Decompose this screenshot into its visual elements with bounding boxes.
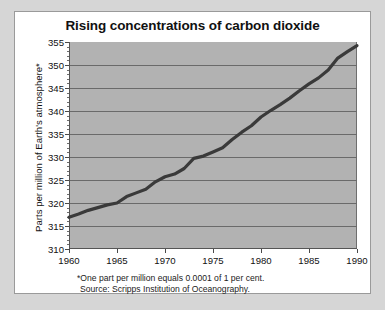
y-tick-label: 345 [48, 83, 64, 94]
figure-card: Rising concentrations of carbon dioxide … [14, 11, 371, 294]
x-tick-label: 1965 [106, 255, 127, 266]
x-tick-label: 1970 [154, 255, 175, 266]
x-tick-label: 1975 [202, 255, 223, 266]
y-tick-label: 325 [48, 175, 64, 186]
x-tick-label: 1990 [346, 255, 367, 266]
x-tick-mark [69, 249, 70, 253]
y-axis-title: Parts per million of Earth's atmosphere* [33, 53, 44, 243]
y-tick-label: 340 [48, 106, 64, 117]
x-tick-mark [357, 249, 358, 253]
plot-wrap: 310315320325330335340345350355 196019651… [69, 42, 357, 249]
y-tick-label: 310 [48, 244, 64, 255]
x-tick-mark [261, 249, 262, 253]
page-title: Rising concentrations of carbon dioxide [15, 18, 370, 33]
footnotes: *One part per million equals 0.0001 of 1… [77, 273, 264, 295]
y-tick-label: 350 [48, 60, 64, 71]
y-tick-label: 315 [48, 221, 64, 232]
data-series-line [69, 42, 357, 249]
x-tick-mark [309, 249, 310, 253]
footnote-definition: *One part per million equals 0.0001 of 1… [77, 273, 264, 284]
x-tick-mark [213, 249, 214, 253]
y-tick-label: 335 [48, 129, 64, 140]
footnote-source: Source: Scripps Institution of Oceanogra… [77, 284, 264, 295]
x-tick-mark [117, 249, 118, 253]
x-tick-label: 1980 [250, 255, 271, 266]
x-tick-mark [165, 249, 166, 253]
x-tick-label: 1985 [298, 255, 319, 266]
y-tick-label: 355 [48, 37, 64, 48]
y-tick-label: 330 [48, 152, 64, 163]
y-tick-label: 320 [48, 198, 64, 209]
x-tick-label: 1960 [58, 255, 79, 266]
